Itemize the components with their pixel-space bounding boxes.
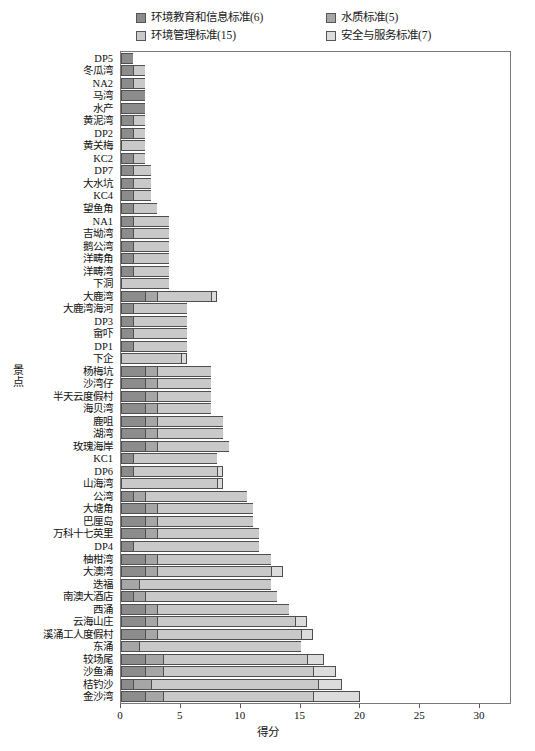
bar-马湾[interactable] — [121, 90, 145, 101]
bar-segment — [157, 629, 301, 640]
bar-下洞[interactable] — [121, 278, 169, 289]
bar-NA2[interactable] — [121, 78, 145, 89]
bar-望鱼角[interactable] — [121, 203, 157, 214]
bar-大水坑[interactable] — [121, 178, 151, 189]
bar-西涌[interactable] — [121, 604, 289, 615]
bar-segment — [121, 453, 133, 464]
bar-鹿咀[interactable] — [121, 416, 223, 427]
bar-segment — [163, 654, 307, 665]
bar-segment — [121, 391, 145, 402]
bar-segment — [121, 466, 133, 477]
bar-segment — [121, 403, 145, 414]
bar-金沙湾[interactable] — [121, 691, 360, 702]
bar-柚柑湾[interactable] — [121, 554, 271, 565]
bar-DP4[interactable] — [121, 541, 259, 552]
bar-洋畴角[interactable] — [121, 253, 169, 264]
bar-鹅公湾[interactable] — [121, 241, 169, 252]
bar-DP5[interactable] — [121, 53, 133, 64]
y-axis-label: 黄泥湾 — [83, 115, 113, 126]
bar-KC2[interactable] — [121, 153, 145, 164]
bar-segment — [121, 103, 145, 114]
bar-沙湾仔[interactable] — [121, 378, 211, 389]
y-axis-label: 洋畴角 — [83, 253, 113, 264]
x-tick-mark — [359, 704, 360, 708]
bar-segment — [133, 228, 169, 239]
bar-大澳湾[interactable] — [121, 566, 283, 577]
chart-legend: 环境教育和信息标准(6) 水质标准(5) 环境管理标准(15) 安全与服务标准(… — [0, 12, 535, 50]
bar-segment — [121, 78, 133, 89]
bar-大鹿湾[interactable] — [121, 291, 217, 302]
bar-大鹿湾海河[interactable] — [121, 303, 187, 314]
y-axis-label: 玫瑰海岸 — [73, 441, 113, 452]
bar-segment — [121, 190, 133, 201]
bar-segment — [133, 153, 145, 164]
bar-DP1[interactable] — [121, 341, 187, 352]
bar-DP2[interactable] — [121, 128, 145, 139]
bar-segment — [121, 153, 133, 164]
bar-segment — [145, 416, 157, 427]
bar-冬瓜湾[interactable] — [121, 65, 145, 76]
legend-entry-1: 水质标准(5) — [326, 12, 398, 24]
bar-黄泥湾[interactable] — [121, 115, 145, 126]
x-tick-mark — [240, 704, 241, 708]
bar-segment — [121, 203, 133, 214]
bar-海贝湾[interactable] — [121, 403, 211, 414]
bar-NA1[interactable] — [121, 216, 169, 227]
bar-segment — [133, 541, 259, 552]
bar-公湾[interactable] — [121, 491, 247, 502]
bar-segment — [145, 591, 277, 602]
bar-KC4[interactable] — [121, 190, 151, 201]
bar-东涌[interactable] — [121, 641, 301, 652]
bar-水产[interactable] — [121, 103, 145, 114]
y-axis-label: 畲吓 — [93, 328, 113, 339]
bars-container — [121, 52, 510, 703]
bar-segment — [145, 366, 157, 377]
y-axis-label: 溪涌工人度假村 — [43, 629, 113, 640]
y-axis-label: 鹿咀 — [93, 416, 113, 427]
y-axis-label: 云海山庄 — [73, 616, 113, 627]
y-axis-label: 大水坑 — [83, 178, 113, 189]
bar-云海山庄[interactable] — [121, 616, 307, 627]
bar-畲吓[interactable] — [121, 328, 187, 339]
bar-下企[interactable] — [121, 353, 187, 364]
y-axis-label: 西涌 — [93, 604, 113, 615]
bar-吉坳湾[interactable] — [121, 228, 169, 239]
legend-label-0: 环境教育和信息标准(6) — [151, 12, 263, 24]
bar-segment — [295, 616, 307, 627]
bar-沙鱼涌[interactable] — [121, 666, 336, 677]
legend-swatch-1 — [326, 13, 336, 23]
bar-巴厘岛[interactable] — [121, 516, 253, 527]
bar-segment — [121, 291, 145, 302]
bar-KC1[interactable] — [121, 453, 217, 464]
bar-迭福[interactable] — [121, 579, 271, 590]
bar-segment — [133, 466, 217, 477]
bar-黄关梅[interactable] — [121, 140, 145, 151]
bar-segment — [157, 516, 253, 527]
bar-玫瑰海岸[interactable] — [121, 441, 229, 452]
y-axis-label: 鹅公湾 — [83, 241, 113, 252]
bar-segment — [133, 78, 145, 89]
bar-南澳大酒店[interactable] — [121, 591, 277, 602]
bar-洋畴湾[interactable] — [121, 266, 169, 277]
bar-山海湾[interactable] — [121, 478, 223, 489]
bar-segment — [133, 341, 187, 352]
bar-segment — [318, 679, 342, 690]
bar-大塘角[interactable] — [121, 503, 253, 514]
bar-半天云度假村[interactable] — [121, 391, 211, 402]
bar-万科十七英里[interactable] — [121, 528, 259, 539]
bar-桔钓沙[interactable] — [121, 679, 342, 690]
bar-较场尾[interactable] — [121, 654, 324, 665]
bar-segment — [121, 579, 139, 590]
bar-杨梅坑[interactable] — [121, 366, 211, 377]
bar-DP6[interactable] — [121, 466, 223, 477]
bar-segment — [121, 216, 133, 227]
bar-湖湾[interactable] — [121, 428, 223, 439]
legend-entry-3: 安全与服务标准(7) — [326, 30, 431, 42]
bar-segment — [145, 691, 163, 702]
bar-segment — [133, 266, 169, 277]
bar-DP3[interactable] — [121, 316, 187, 327]
bar-DP7[interactable] — [121, 165, 151, 176]
bar-溪涌工人度假村[interactable] — [121, 629, 313, 640]
bar-segment — [121, 541, 133, 552]
y-axis-label: 望鱼角 — [83, 203, 113, 214]
